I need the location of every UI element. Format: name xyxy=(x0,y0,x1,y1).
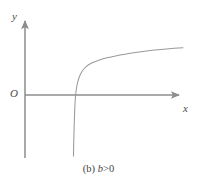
figure-container: y x O (b) b>0 xyxy=(0,0,197,189)
plot-canvas xyxy=(0,0,197,189)
origin-label: O xyxy=(10,88,18,99)
y-axis-label: y xyxy=(12,11,17,22)
caption-relation: >0 xyxy=(103,163,114,174)
log-curve xyxy=(74,48,184,156)
figure-caption: (b) b>0 xyxy=(0,163,197,175)
x-axis-label: x xyxy=(183,103,188,114)
caption-index: (b) xyxy=(83,163,95,174)
